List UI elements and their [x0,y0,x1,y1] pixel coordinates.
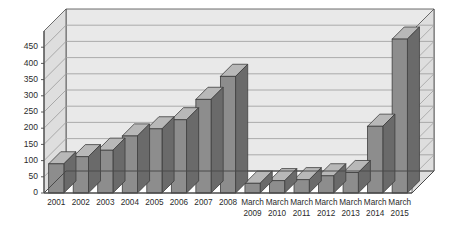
bar [196,87,223,193]
bar [147,117,174,193]
y-axis-tick-label: 400 [24,58,38,68]
bar-chart: 050100150200250300350400450 200120022003… [0,0,452,232]
x-axis-tick-label: March [364,198,387,207]
x-axis-tick-label: 2006 [170,198,189,207]
bar [171,108,198,193]
y-axis-tick-label: 200 [24,122,38,132]
x-axis-tick-label: March [266,198,289,207]
x-axis-tick-label: 2014 [366,209,385,218]
chart-canvas: 050100150200250300350400450 200120022003… [0,0,452,232]
y-axis-tick-label: 0 [33,187,38,197]
x-axis-tick-label: March [388,198,411,207]
bar-side-face [236,64,248,193]
bar [122,124,149,193]
bar [220,64,247,193]
x-axis-tick-label: 2002 [72,198,91,207]
bar-side-face [211,87,223,193]
y-axis-tick-label: 50 [29,171,39,181]
x-axis-tick-label: 2015 [391,209,410,218]
x-axis-tick-label: 2010 [268,209,287,218]
y-axis-tick-label: 350 [24,74,38,84]
x-axis-tick-label: 2004 [121,198,140,207]
bar-front-face [269,181,284,193]
y-axis-tick-label: 150 [24,139,38,149]
bar-side-face [137,124,149,193]
x-axis-tick-label: March [241,198,264,207]
bar-side-face [162,117,174,193]
x-axis-tick-label: 2008 [219,198,238,207]
x-axis-tick-label: 2009 [243,209,262,218]
x-axis-tick-label: 2011 [293,209,311,218]
bar-side-face [407,27,419,193]
x-axis-tick-label: 2007 [194,198,213,207]
bar-front-face [49,164,64,193]
bar [392,27,419,193]
x-axis-tick-label: 2012 [317,209,336,218]
bar-front-face [245,183,260,193]
bar [98,138,125,193]
x-axis-tick-label: 2013 [342,209,361,218]
y-axis-tick-label: 450 [24,41,38,51]
x-axis-tick-label: March [315,198,338,207]
x-axis-tick-label: March [290,198,313,207]
x-axis-tick-label: 2003 [96,198,115,207]
x-axis-tick-label: 2005 [145,198,164,207]
bar [368,114,395,193]
bar-front-face [368,126,383,193]
y-axis-tick-label: 300 [24,90,38,100]
bar-side-face [383,114,395,193]
x-axis-tick-label: March [339,198,362,207]
y-axis-tick-label: 100 [24,155,38,165]
y-axis-tick-label: 250 [24,106,38,116]
bar-side-face [187,108,199,193]
x-axis-tick-label: 2001 [47,198,66,207]
